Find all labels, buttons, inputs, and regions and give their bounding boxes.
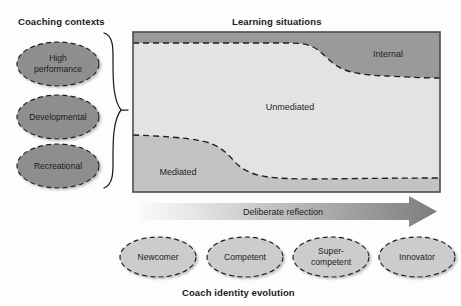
coach-identity-group: Newcomer Competent Super- competent Inno… [120,237,455,277]
identity-ellipse-super-competent[interactable]: Super- competent [293,237,369,277]
context-label-line2: performance [34,64,82,74]
context-label-line1: Recreational [34,161,82,171]
identity-ellipse-innovator[interactable]: Innovator [379,237,455,277]
identity-label-line2: competent [311,257,352,267]
context-ellipse-high-performance[interactable]: High performance [17,42,99,86]
arrow-label: Deliberate reflection [243,207,323,217]
identity-label-line1: Innovator [399,252,435,262]
curly-brace [104,33,128,188]
context-label-line1: High [49,53,67,63]
identity-label-line1: Competent [224,252,267,262]
zone-label-unmediated: Unmediated [266,102,315,112]
identity-ellipse-competent[interactable]: Competent [207,237,283,277]
learning-situations-box: Internal Unmediated Mediated [133,32,440,192]
context-label-line1: Developmental [29,112,86,122]
identity-label-line1: Super- [318,246,344,256]
identity-label-line1: Newcomer [137,252,178,262]
zone-label-internal: Internal [373,49,403,59]
diagram-root: Coaching contexts Learning situations Co… [0,0,461,306]
identity-ellipse-newcomer[interactable]: Newcomer [120,237,196,277]
zone-label-mediated: Mediated [159,167,196,177]
coaching-contexts-group: High performance Developmental Recreatio… [17,42,99,188]
context-ellipse-developmental[interactable]: Developmental [17,95,99,139]
deliberate-reflection-arrow: Deliberate reflection [140,196,437,227]
diagram-canvas: High performance Developmental Recreatio… [0,0,461,306]
context-ellipse-recreational[interactable]: Recreational [17,144,99,188]
